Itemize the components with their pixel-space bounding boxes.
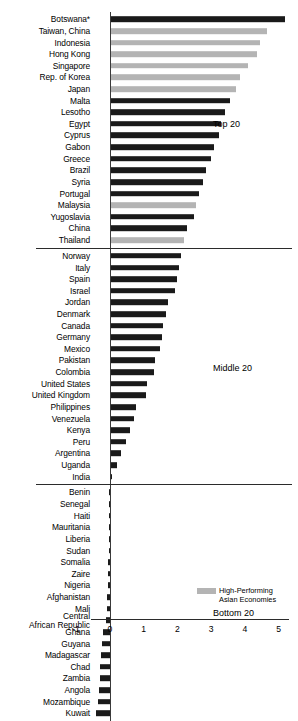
category-label: Liberia bbox=[66, 535, 90, 543]
category-label: Singapore bbox=[53, 62, 90, 70]
category-label: Haiti bbox=[74, 512, 90, 520]
chart-bar bbox=[96, 710, 110, 716]
category-label: Peru bbox=[73, 438, 90, 446]
chart-row: Argentina bbox=[0, 448, 298, 460]
chart-bar bbox=[110, 369, 155, 375]
category-label: Mauritania bbox=[52, 523, 90, 531]
group-label: Top 20 bbox=[213, 119, 240, 129]
chart-bar bbox=[110, 179, 203, 185]
category-label: Taiwan, China bbox=[39, 27, 90, 35]
category-label: Cyprus bbox=[64, 131, 90, 139]
category-label: Hong Kong bbox=[49, 50, 90, 58]
chart-row: Malaysia bbox=[0, 199, 298, 211]
chart-row: Liberia bbox=[0, 533, 298, 545]
chart-bar bbox=[110, 439, 126, 445]
category-label: Botswana* bbox=[51, 15, 90, 23]
chart-bar bbox=[110, 144, 215, 150]
category-label: Germany bbox=[56, 333, 90, 341]
chart-bar bbox=[110, 346, 160, 352]
category-label: Kenya bbox=[67, 426, 90, 434]
category-label: Mexico bbox=[64, 345, 90, 353]
category-label: Argentina bbox=[55, 449, 90, 457]
chart-row: Hong Kong bbox=[0, 48, 298, 60]
chart-bar bbox=[110, 156, 211, 162]
category-label: Jordan bbox=[65, 298, 90, 306]
chart-row: Zaire bbox=[0, 568, 298, 580]
chart-row: Gabon bbox=[0, 141, 298, 153]
chart-row: Japan bbox=[0, 83, 298, 95]
chart-bar bbox=[110, 109, 225, 115]
chart-row: Brazil bbox=[0, 165, 298, 177]
category-label: Sudan bbox=[66, 546, 90, 554]
chart-row: Chad bbox=[0, 661, 298, 673]
chart-bar bbox=[110, 63, 248, 69]
legend-label-line2: Asian Economies bbox=[219, 595, 276, 604]
legend-swatch bbox=[197, 588, 216, 594]
chart-row: Sudan bbox=[0, 545, 298, 557]
category-label: Japan bbox=[68, 85, 90, 93]
chart-row: India bbox=[0, 471, 298, 483]
chart-row: Portugal bbox=[0, 188, 298, 200]
category-label: Lesotho bbox=[61, 108, 90, 116]
category-label: Nigeria bbox=[64, 581, 90, 589]
chart-row: Egypt bbox=[0, 118, 298, 130]
chart-bar bbox=[110, 98, 230, 104]
x-tick-label: 1 bbox=[141, 624, 146, 634]
x-tick-label: 3 bbox=[209, 624, 214, 634]
chart-row: Colombia bbox=[0, 366, 298, 378]
chart-bar bbox=[110, 28, 267, 34]
chart-row: Taiwan, China bbox=[0, 25, 298, 37]
chart-row: Canada bbox=[0, 320, 298, 332]
category-label: Greece bbox=[63, 155, 90, 163]
chart-bar bbox=[110, 237, 184, 243]
category-label: Central bbox=[63, 612, 90, 620]
chart-row: Italy bbox=[0, 262, 298, 274]
category-label: Mozambique bbox=[43, 697, 90, 705]
x-tick-label: 5 bbox=[276, 624, 281, 634]
chart-row: United Kingdom bbox=[0, 390, 298, 402]
category-label: Kuwait bbox=[65, 709, 90, 717]
chart-row: Ghana bbox=[0, 626, 298, 638]
chart-bar bbox=[110, 300, 168, 306]
chart-row: Greece bbox=[0, 153, 298, 165]
chart-row: Mexico bbox=[0, 343, 298, 355]
chart-bar bbox=[110, 214, 194, 220]
chart-row: Guyana bbox=[0, 638, 298, 650]
category-label: Yugoslavia bbox=[50, 213, 90, 221]
category-label: Norway bbox=[62, 252, 90, 260]
chart-bar bbox=[110, 51, 257, 57]
category-label: Venezuela bbox=[52, 414, 90, 422]
chart-row: Germany bbox=[0, 331, 298, 343]
category-label: United Kingdom bbox=[32, 391, 90, 399]
category-label: Philippines bbox=[51, 403, 90, 411]
category-label: India bbox=[72, 472, 90, 480]
chart-bar bbox=[110, 334, 162, 340]
chart-bar bbox=[110, 416, 134, 422]
chart-row: Peru bbox=[0, 436, 298, 448]
chart-bar bbox=[110, 451, 121, 457]
chart-bar bbox=[100, 676, 110, 682]
category-label: Chad bbox=[70, 663, 90, 671]
chart-bar bbox=[110, 226, 188, 232]
chart-row: Kuwait bbox=[0, 707, 298, 719]
chart-bar bbox=[110, 75, 240, 81]
chart-row: China bbox=[0, 223, 298, 235]
chart-bar bbox=[110, 393, 146, 399]
chart-bar bbox=[110, 17, 286, 23]
category-label: Guyana bbox=[61, 639, 90, 647]
chart-row: Botswana* bbox=[0, 14, 298, 26]
category-label: Malaysia bbox=[58, 201, 90, 209]
category-label: Malta bbox=[70, 96, 90, 104]
category-label: Colombia bbox=[55, 368, 90, 376]
category-label: Rep. of Korea bbox=[40, 73, 90, 81]
group-label: Middle 20 bbox=[213, 363, 252, 373]
chart-row: Uganda bbox=[0, 459, 298, 471]
category-label: China bbox=[69, 224, 90, 232]
chart-bar bbox=[100, 664, 109, 670]
chart-bar bbox=[110, 191, 199, 197]
category-label: Syria bbox=[71, 178, 90, 186]
category-label: United States bbox=[41, 380, 90, 388]
chart-bar bbox=[110, 311, 166, 317]
